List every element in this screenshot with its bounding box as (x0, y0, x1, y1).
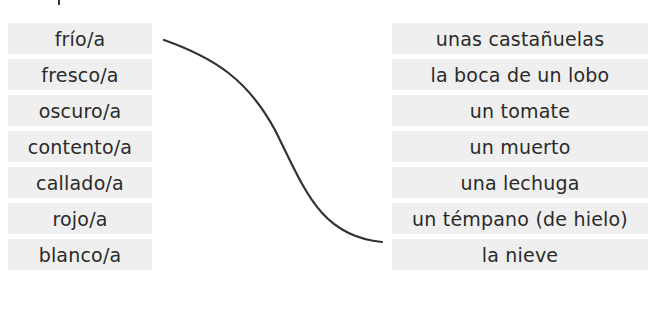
cut-off-heading-fragment (58, 0, 60, 5)
right-item-tempano[interactable]: un témpano (de hielo) (392, 203, 648, 234)
left-item-oscuro[interactable]: oscuro/a (8, 95, 152, 126)
right-item-label: un tomate (470, 100, 570, 122)
left-item-label: rojo/a (52, 208, 107, 230)
left-column-adjectives: frío/a fresco/a oscuro/a contento/a call… (8, 23, 152, 275)
right-item-lechuga[interactable]: una lechuga (392, 167, 648, 198)
left-item-label: oscuro/a (39, 100, 122, 122)
right-item-label: unas castañuelas (436, 28, 605, 50)
right-item-tomate[interactable]: un tomate (392, 95, 648, 126)
left-item-label: callado/a (36, 172, 124, 194)
right-item-boca-lobo[interactable]: la boca de un lobo (392, 59, 648, 90)
right-item-muerto[interactable]: un muerto (392, 131, 648, 162)
left-item-contento[interactable]: contento/a (8, 131, 152, 162)
left-item-blanco[interactable]: blanco/a (8, 239, 152, 270)
right-column-comparisons: unas castañuelas la boca de un lobo un t… (392, 23, 648, 275)
right-item-nieve[interactable]: la nieve (392, 239, 648, 270)
right-item-label: la boca de un lobo (431, 64, 610, 86)
right-item-label: un témpano (de hielo) (412, 208, 628, 230)
right-item-castanuelas[interactable]: unas castañuelas (392, 23, 648, 54)
right-item-label: un muerto (469, 136, 570, 158)
right-item-label: una lechuga (460, 172, 579, 194)
left-item-label: blanco/a (39, 244, 122, 266)
left-item-frio[interactable]: frío/a (8, 23, 152, 54)
left-item-label: frío/a (55, 28, 106, 50)
left-item-label: contento/a (28, 136, 132, 158)
right-item-label: la nieve (482, 244, 559, 266)
left-item-fresco[interactable]: fresco/a (8, 59, 152, 90)
left-item-callado[interactable]: callado/a (8, 167, 152, 198)
left-item-rojo[interactable]: rojo/a (8, 203, 152, 234)
left-item-label: fresco/a (41, 64, 118, 86)
